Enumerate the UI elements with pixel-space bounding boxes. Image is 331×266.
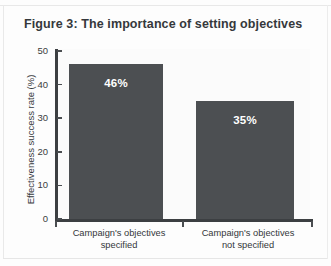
x-axis-tick-middle: [182, 221, 184, 227]
x-axis-category-label: Campaign's objectives not specified: [184, 228, 312, 251]
page-border-top: [0, 5, 331, 6]
y-axis-tick: [57, 218, 62, 220]
y-axis-tick: [57, 84, 62, 86]
x-axis-category-label: Campaign's objectives specified: [56, 228, 182, 251]
chart-title: Figure 3: The importance of setting obje…: [24, 17, 302, 31]
page-border-bottom: [3, 258, 327, 259]
bar-campaigns-objectives-specified: 46%: [69, 64, 163, 219]
y-axis-tick: [57, 185, 62, 187]
bar-value-label: 35%: [196, 114, 294, 126]
category-label-line: Campaign's objectives: [184, 228, 312, 240]
y-axis-title: Effectiveness success rate (%): [25, 60, 36, 220]
page-border-right: [327, 5, 328, 259]
x-axis-tick-end: [311, 221, 313, 227]
x-axis-tick-start: [55, 221, 57, 227]
category-label-line: not specified: [184, 240, 312, 252]
bar-campaigns-objectives-not-specified: 35%: [196, 101, 294, 219]
bar-value-label: 46%: [69, 77, 163, 89]
y-axis-tick: [57, 151, 62, 153]
x-axis-line: [55, 219, 313, 222]
figure-container: Figure 3: The importance of setting obje…: [0, 0, 331, 266]
y-axis-line: [55, 49, 58, 220]
page-border-left: [3, 5, 4, 259]
y-axis-tick: [57, 50, 62, 52]
y-axis-tick: [57, 117, 62, 119]
category-label-line: Campaign's objectives: [56, 228, 182, 240]
category-label-line: specified: [56, 240, 182, 252]
y-axis-tick-label: 50: [18, 46, 48, 56]
